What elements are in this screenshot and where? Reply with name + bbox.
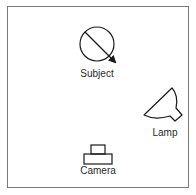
camera-label: Camera [80, 165, 116, 176]
subject-label: Subject [80, 68, 113, 79]
camera-icon [84, 145, 112, 164]
subject-icon [80, 27, 115, 62]
lamp-icon [144, 88, 182, 121]
lamp-label: Lamp [152, 127, 177, 138]
